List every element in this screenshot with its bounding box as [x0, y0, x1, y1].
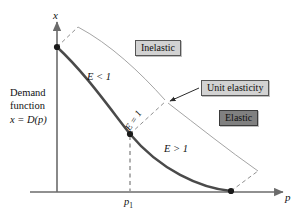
- caption-line-2: function: [10, 99, 76, 112]
- callout-elastic: Elastic: [219, 110, 258, 126]
- tick-label-p1: p1: [124, 196, 133, 210]
- tick-label-p1-sub: 1: [129, 201, 133, 210]
- callout-inelastic: Inelastic: [135, 40, 181, 56]
- region-label-inelastic: E < 1: [87, 71, 111, 83]
- caption-line-3: x = D(p): [10, 113, 76, 126]
- unit-elasticity-leader: [170, 88, 199, 101]
- band-upper-inelastic: [78, 27, 165, 100]
- demand-function-caption: Demand function x = D(p): [10, 86, 76, 126]
- demand-curve: [57, 47, 231, 191]
- region-elastic-text: E > 1: [164, 143, 188, 154]
- y-axis-label: x: [53, 9, 58, 21]
- region-inelastic-text: E < 1: [87, 71, 111, 82]
- caption-line-1: Demand: [10, 86, 76, 99]
- x-axis-label: p: [285, 191, 291, 203]
- dashed-connector-bottom: [231, 171, 258, 191]
- callout-unit-elasticity: Unit elasticity: [201, 80, 269, 96]
- dashed-connector-top: [57, 27, 78, 47]
- point-x-intercept: [54, 44, 60, 50]
- region-label-elastic: E > 1: [164, 143, 188, 155]
- point-p-intercept: [228, 188, 234, 194]
- elasticity-diagram: x p Demand function x = D(p) E < 1 E > 1…: [0, 0, 301, 224]
